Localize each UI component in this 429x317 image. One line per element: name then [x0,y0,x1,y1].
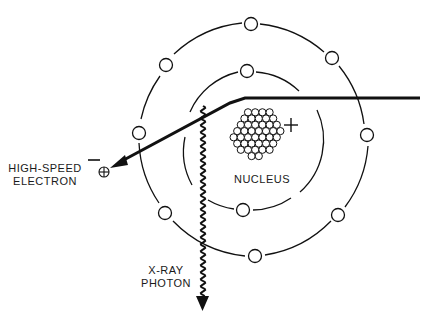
high-speed-electron-label: HIGH-SPEED ELECTRON [2,162,88,188]
photon-arrowhead-icon [196,296,209,311]
electron-icon [326,52,339,65]
electron-icon [159,207,172,220]
electron-label-line2: ELECTRON [2,175,88,188]
electron-icon [241,65,254,78]
xray-photon-label: X-RAY PHOTON [136,264,196,290]
xray-photon-wave [201,106,205,296]
electron-icon [361,129,374,142]
electron-label-line1: HIGH-SPEED [2,162,88,175]
nucleus-label: NUCLEUS [232,173,292,186]
electron-icon [249,250,262,263]
photon-label-line2: PHOTON [136,277,196,290]
electron-icon [332,209,345,222]
positive-charge-icon [284,118,298,132]
electron-arrowhead-icon [110,155,128,168]
electron-icon [133,127,146,140]
electron-icon [245,18,258,31]
high-speed-electron-icon [99,167,109,177]
electron-icon [160,59,173,72]
atom-diagram [0,0,429,317]
electron-icon [237,204,250,217]
photon-label-line1: X-RAY [136,264,196,277]
